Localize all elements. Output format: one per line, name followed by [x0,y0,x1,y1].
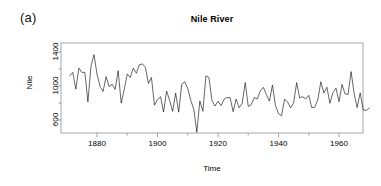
chart-panel: (a) Nile River Nile Time 188019001920194… [0,0,381,186]
y-axis-ticks [57,52,61,120]
plot-border [61,43,363,133]
nile-series-line [70,55,369,133]
x-axis-ticks [97,133,339,137]
line-plot [0,0,381,186]
axes [57,43,363,137]
